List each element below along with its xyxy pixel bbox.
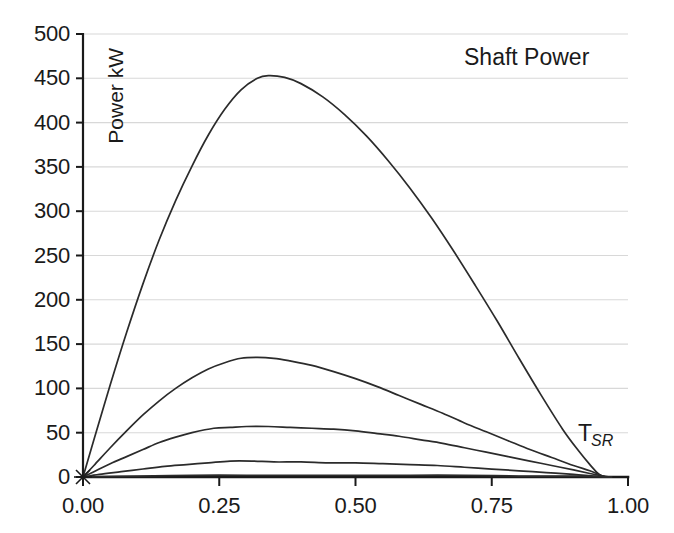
data-curve — [83, 426, 609, 477]
x-axis-tick-label: 0.75 — [471, 493, 513, 519]
y-axis-tick-label: 150 — [0, 331, 70, 357]
y-axis-tick-label: 350 — [0, 154, 70, 180]
y-axis-title: Power kW — [104, 48, 128, 144]
y-axis-tick-label: 100 — [0, 375, 70, 401]
data-curve — [83, 357, 606, 477]
tick-marks-group — [76, 34, 628, 486]
y-axis-tick-label: 50 — [0, 420, 70, 446]
y-axis-tick-label: 500 — [0, 21, 70, 47]
x-axis-title-subscript: SR — [591, 432, 613, 449]
x-axis-tick-label: 1.00 — [607, 493, 649, 519]
y-axis-tick-label: 300 — [0, 198, 70, 224]
x-axis-tick-label: 0.00 — [62, 493, 104, 519]
chart-title: Shaft Power — [464, 44, 589, 71]
data-curve — [83, 76, 603, 477]
origin-marker — [74, 468, 92, 486]
x-axis-tick-label: 0.25 — [198, 493, 240, 519]
y-axis-tick-label: 0 — [0, 464, 70, 490]
y-axis-tick-label: 450 — [0, 65, 70, 91]
chart-figure: 050100150200250300350400450500 0.000.250… — [0, 0, 674, 533]
chart-plot-area — [0, 0, 674, 533]
data-curves-group — [83, 76, 612, 477]
x-axis-title-base: T — [578, 420, 592, 446]
x-axis-tick-label: 0.50 — [334, 493, 376, 519]
x-axis-title: TSR — [578, 420, 614, 447]
y-axis-tick-label: 400 — [0, 110, 70, 136]
y-axis-tick-label: 200 — [0, 287, 70, 313]
gridlines-group — [83, 34, 628, 433]
y-axis-tick-label: 250 — [0, 243, 70, 269]
